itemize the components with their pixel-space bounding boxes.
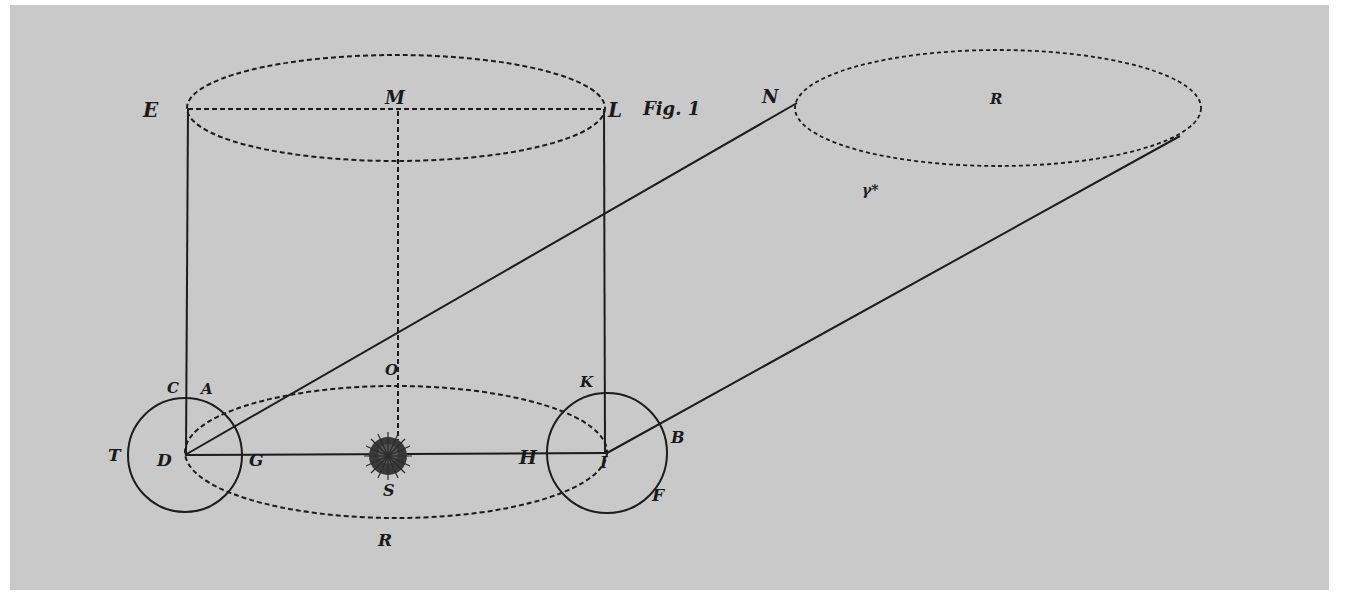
astronomical-figure: E M L Fig. 1 N R γ* C A O K T D G S H I … (0, 0, 1346, 596)
label-E: E (142, 98, 159, 122)
label-star-gamma: γ* (862, 182, 879, 198)
label-K: K (579, 373, 594, 391)
label-A: A (199, 380, 213, 398)
label-M: M (384, 87, 406, 108)
label-R-orbit: R (377, 530, 392, 550)
label-B: B (670, 428, 685, 447)
label-O: O (385, 361, 398, 379)
label-C: C (167, 379, 179, 397)
label-L: L (607, 98, 622, 122)
label-I: I (599, 453, 608, 472)
line-E-D (186, 109, 188, 455)
label-S: S (383, 481, 395, 500)
label-D: D (156, 450, 172, 470)
label-N: N (761, 86, 780, 107)
figure-caption: Fig. 1 (642, 98, 700, 119)
far-ellipse (795, 50, 1201, 166)
line-I-far (607, 136, 1180, 453)
label-R-far: R (989, 90, 1002, 108)
line-L-I (604, 109, 605, 453)
label-T: T (108, 445, 122, 465)
label-F: F (651, 485, 666, 505)
label-G: G (249, 450, 264, 470)
label-H: H (518, 446, 538, 468)
sun-icon (364, 432, 412, 480)
